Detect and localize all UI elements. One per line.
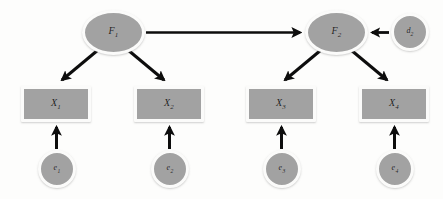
node-x3-label: X3 [276,97,286,111]
node-f2-label: F2 [331,25,341,39]
node-e3[interactable]: e3 [263,150,301,188]
node-e4-label: e4 [392,163,399,174]
node-d2[interactable]: d2 [391,13,429,51]
node-f1-label: F1 [108,25,118,39]
node-x2[interactable]: X2 [134,86,204,122]
node-x4-label: X4 [389,97,399,111]
node-x4[interactable]: X4 [359,86,429,122]
node-x3[interactable]: X3 [246,86,316,122]
node-e1[interactable]: e1 [38,150,76,188]
edge-f1-to-x1 [62,50,98,80]
node-f1[interactable]: F1 [82,10,145,55]
node-x1[interactable]: X1 [21,86,91,122]
path-diagram-canvas: F1 F2 d2 X1 X2 X3 X4 e1 [0,0,443,199]
node-d2-label: d2 [406,26,413,37]
node-f2[interactable]: F2 [305,10,368,55]
node-e4[interactable]: e4 [376,150,414,188]
node-e1-label: e1 [54,163,61,174]
node-x1-label: X1 [51,97,61,111]
node-e2[interactable]: e2 [151,150,189,188]
edge-f2-to-x4 [351,50,387,80]
node-e3-label: e3 [279,163,286,174]
edge-f1-to-x2 [128,50,164,80]
edge-f2-to-x3 [285,50,321,80]
node-x2-label: X2 [164,97,174,111]
node-e2-label: e2 [167,163,174,174]
